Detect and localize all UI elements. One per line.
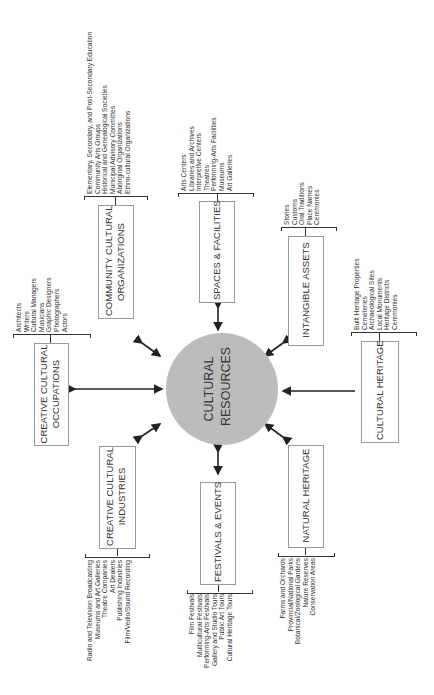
list-item: Cemeteries xyxy=(361,259,369,330)
center-label-line2: RESOURCES xyxy=(218,352,235,426)
industries-bracket xyxy=(85,554,150,558)
spaces-items: Arts Centers Libraries and Archives Inte… xyxy=(180,117,233,191)
spaces-bracket xyxy=(178,193,254,197)
list-item: Radio and Television Broadcasting xyxy=(86,560,94,695)
occupations-items: Architects Writers Cultural Managers Mus… xyxy=(15,277,68,332)
list-item: Ethno-cultural Organizations xyxy=(124,32,132,194)
arrow-community xyxy=(142,343,160,356)
list-item: Museums xyxy=(218,117,226,191)
community-cultural-organizations-label: COMMUNITY CULTURAL ORGANIZATIONS xyxy=(103,208,127,316)
list-item: Art Galleries xyxy=(226,117,234,191)
creative-cultural-industries-label: CREATIVE CULTURAL INDUSTRIES xyxy=(104,447,128,546)
list-item: Place Names xyxy=(306,182,314,225)
list-item: Theatre Companies xyxy=(101,560,109,695)
center-label-line1: CULTURAL xyxy=(201,352,218,426)
list-item: Libraries and Archives xyxy=(188,117,196,191)
list-item: Interpretive Centers xyxy=(195,117,203,191)
list-item: Built Heritage Properties xyxy=(353,259,361,330)
list-item: Archaeological Sites xyxy=(368,259,376,330)
list-item: Architects xyxy=(15,277,23,332)
list-item: Cultural Heritage Tours xyxy=(226,594,234,688)
list-item: Theatres xyxy=(203,117,211,191)
creative-cultural-occupations-label: CREATIVE CULTURAL OCCUPATIONS xyxy=(38,344,62,444)
festivals-items: Film Festivals Multicultural Festivals P… xyxy=(188,594,234,688)
list-item: Aboriginal Organizations xyxy=(116,32,124,194)
community-bracket xyxy=(84,196,148,200)
industries-items: Radio and Television Broadcasting Museum… xyxy=(86,560,132,695)
arrow-industries xyxy=(142,424,160,436)
list-item: Writers xyxy=(23,277,31,332)
cultural-heritage-items: Built Heritage Properties Cemeteries Arc… xyxy=(353,259,399,330)
list-item: Stories xyxy=(283,182,291,225)
list-item: Oral Traditions xyxy=(298,182,306,225)
list-item: Municipal Advisory Committes xyxy=(109,32,117,194)
natural-heritage-items: Farms and Orchards Provincial/National P… xyxy=(279,558,317,668)
arrow-natural xyxy=(265,424,283,437)
list-item: Art Dealers xyxy=(109,560,117,695)
arrow-intangible xyxy=(265,343,283,356)
list-item: Botanical/Zoological Gardens xyxy=(294,558,302,668)
list-item: Arts Centers xyxy=(180,117,188,191)
list-item: Nature Reserves xyxy=(302,558,310,668)
list-item: Customs xyxy=(291,182,299,225)
list-item: Public Art Tours xyxy=(218,594,226,688)
list-item: Performing-Arts Facilities xyxy=(210,117,218,191)
cultural-resources-label: CULTURAL RESOURCES xyxy=(201,352,235,426)
festivals-events-label: FESTIVALS & EVENTS xyxy=(212,484,224,582)
list-item: Photographers xyxy=(53,277,61,332)
list-item: Multicultural Festivals xyxy=(196,594,204,688)
list-item: Film Festivals xyxy=(188,594,196,688)
list-item: Publishing Industries xyxy=(116,560,124,695)
list-item: Historical and Genealogical Societies xyxy=(101,32,109,194)
list-item: Graphic Designers xyxy=(45,277,53,332)
list-item: Museums and Art Galleries xyxy=(94,560,102,695)
list-item: Heritage Districts xyxy=(383,259,391,330)
intangible-assets-label: INTANGIBLE ASSETS xyxy=(300,237,312,343)
list-item: Musicians xyxy=(38,277,46,332)
list-item: Conservation Areas xyxy=(309,558,317,668)
natural-heritage-label: NATURAL HERITAGE xyxy=(300,446,312,545)
cultural-heritage-label: CULTURAL HERITAGE xyxy=(374,342,386,440)
list-item: Cultural Managers xyxy=(30,277,38,332)
occupations-bracket xyxy=(13,334,91,338)
list-item: Ceremonies xyxy=(313,182,321,225)
spaces-facilities-label: SPACES & FACILITIES xyxy=(211,202,223,300)
list-item: Farms and Orchards xyxy=(279,558,287,668)
list-item: Gallery and Studio Tours xyxy=(211,594,219,688)
intangible-bracket xyxy=(281,227,337,231)
list-item: Performing-Arts Festivals xyxy=(203,594,211,688)
list-item: Elementary, Secondary, and Post-Secondar… xyxy=(86,32,94,194)
natural-heritage-bracket xyxy=(278,553,335,557)
community-items: Elementary, Secondary, and Post-Secondar… xyxy=(86,32,132,194)
list-item: Provincial/National Parks xyxy=(287,558,295,668)
list-item: Actors xyxy=(61,277,69,332)
list-item: Ceremonies xyxy=(391,259,399,330)
intangible-items: Stories Customs Oral Traditions Place Na… xyxy=(283,182,321,225)
list-item: Film/Vedio/Sound Recording xyxy=(124,560,132,695)
list-item: Community Arts Groups xyxy=(94,32,102,194)
cultural-heritage-bracket xyxy=(351,332,417,336)
list-item: Local Monuments xyxy=(376,259,384,330)
